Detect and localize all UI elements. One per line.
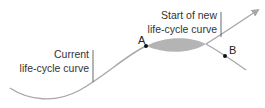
current-curve-label-line2: life-cycle curve <box>20 62 90 74</box>
point-b-marker <box>223 54 227 58</box>
current-curve-label-line1: Current <box>54 48 89 60</box>
new-curve-label-line2: life-cycle curve <box>148 23 218 35</box>
point-a-label: A <box>138 34 146 46</box>
new-curve-label-line1: Start of new <box>161 9 217 21</box>
overlap-lens <box>146 38 206 52</box>
life-cycle-diagram: Current life-cycle curve Start of new li… <box>0 0 265 108</box>
point-b-label: B <box>229 44 236 56</box>
